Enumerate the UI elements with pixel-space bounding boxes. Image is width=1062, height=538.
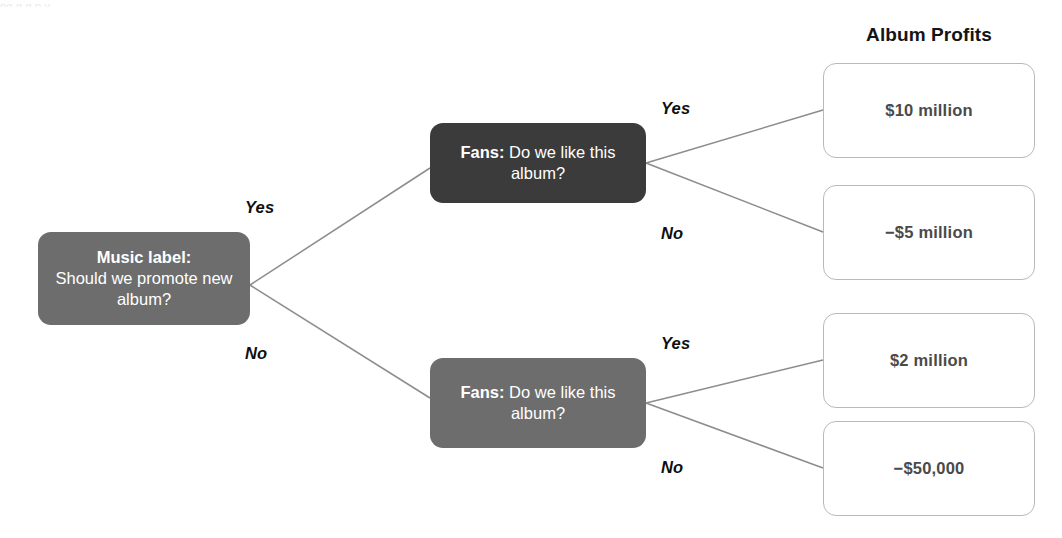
edge-root-yes <box>250 168 430 285</box>
node-music-label-lead: Music label: <box>97 248 191 266</box>
outcome-box-4[interactable]: −$50,000 <box>823 421 1035 516</box>
decision-tree-diagram: ng p g p y Album Profits Music label: <box>0 0 1062 538</box>
album-profits-heading: Album Profits <box>823 24 1035 46</box>
node-fans-bottom-text: Fans: Do we like this album? <box>440 382 636 424</box>
edge-label-root-yes: Yes <box>245 198 274 217</box>
node-fans-top[interactable]: Fans: Do we like this album? <box>430 123 646 203</box>
edge-label-top-no: No <box>661 224 683 243</box>
node-music-label-question: Should we promote new album? <box>55 269 232 308</box>
node-fans-bottom[interactable]: Fans: Do we like this album? <box>430 358 646 448</box>
edge-label-root-no: No <box>245 344 267 363</box>
edge-label-bottom-no: No <box>661 458 683 477</box>
outcome-box-3[interactable]: $2 million <box>823 313 1035 408</box>
edge-label-bottom-yes: Yes <box>661 334 690 353</box>
outcome-box-2[interactable]: −$5 million <box>823 185 1035 280</box>
edge-top-no <box>646 163 823 232</box>
node-fans-bottom-lead: Fans: <box>461 383 505 401</box>
node-fans-top-lead: Fans: <box>461 143 505 161</box>
edge-bottom-yes <box>646 360 823 403</box>
edge-label-top-yes: Yes <box>661 99 690 118</box>
node-music-label[interactable]: Music label: Should we promote new album… <box>38 232 250 325</box>
outcome-box-1[interactable]: $10 million <box>823 63 1035 158</box>
node-fans-bottom-question: Do we like this album? <box>509 383 615 422</box>
edge-root-no <box>250 285 430 398</box>
node-fans-top-text: Fans: Do we like this album? <box>440 142 636 184</box>
node-fans-top-question: Do we like this album? <box>509 143 615 182</box>
node-music-label-text: Music label: Should we promote new album… <box>48 247 240 310</box>
